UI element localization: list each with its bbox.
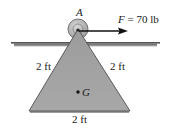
base-length-label: 2 ft <box>72 113 87 125</box>
pin-label: A <box>75 6 83 18</box>
arrowhead-icon <box>118 28 128 35</box>
right-side-length-label: 2 ft <box>110 60 125 72</box>
force-label: F = 70 lb <box>117 13 159 25</box>
center-of-gravity-label: G <box>82 86 90 98</box>
force-value: 70 lb <box>136 13 159 25</box>
center-of-gravity-dot <box>76 90 79 93</box>
left-side-length-label: 2 ft <box>36 60 51 72</box>
force-equals: = <box>125 13 137 25</box>
triangle-plate-diagram: A F = 70 lb 2 ft 2 ft 2 ft G <box>0 0 170 132</box>
